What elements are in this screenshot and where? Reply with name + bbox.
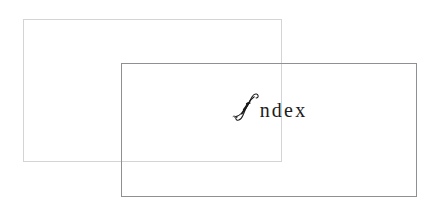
decorative-rectangle-front — [121, 63, 417, 197]
page-canvas: ndex — [0, 0, 431, 213]
